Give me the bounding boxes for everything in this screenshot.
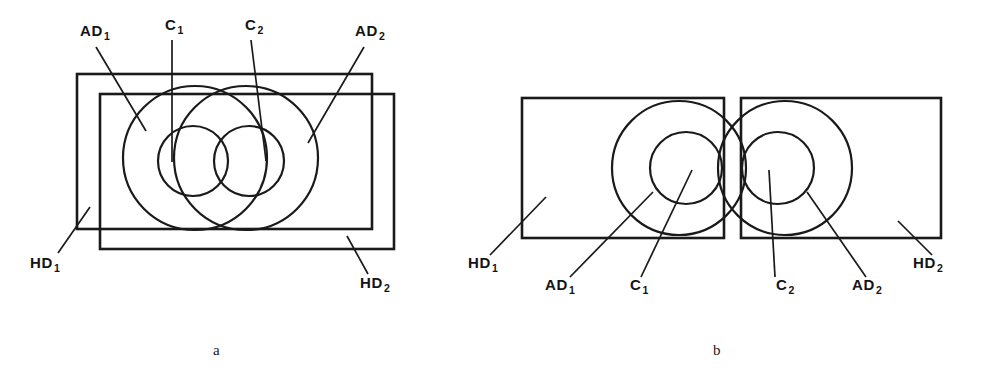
- panel-b-label-hd2: HD2: [913, 254, 943, 274]
- panel-b-leader-ad2: [807, 192, 866, 277]
- panel-a-circle-c2: [214, 126, 284, 196]
- caption-b: b: [713, 342, 721, 358]
- venn-diagram-figure: AD1 C1 C2 AD2 HD1 HD2: [0, 0, 995, 384]
- panel-a-label-ad1: AD1: [80, 22, 110, 42]
- panel-a-label-c1: C1: [165, 16, 184, 36]
- panel-b-circle-ad2: [718, 101, 852, 235]
- panel-b-rect-hd1: [522, 98, 724, 238]
- panel-b-label-ad2: AD2: [852, 276, 882, 296]
- panel-b-label-hd1: HD1: [468, 254, 498, 274]
- panel-b-circle-c1: [650, 132, 722, 204]
- panel-b-circle-ad1: [612, 101, 746, 235]
- panel-b-label-c2: C2: [776, 276, 795, 296]
- panel-a-label-ad2: AD2: [355, 22, 385, 42]
- panel-b-leader-c1: [641, 170, 692, 277]
- panel-a-rect-hd2: [100, 94, 394, 249]
- panel-a-rect-hd1: [77, 74, 372, 229]
- panel-a-group: AD1 C1 C2 AD2 HD1 HD2: [30, 16, 394, 294]
- panel-b-label-c1: C1: [630, 276, 649, 296]
- panel-a-label-hd2: HD2: [360, 274, 390, 294]
- panel-a-label-c2: C2: [245, 16, 264, 36]
- panel-b-leader-ad1: [570, 192, 653, 277]
- panel-b-label-ad1: AD1: [545, 276, 575, 296]
- panel-b-group: HD1 AD1 C1 C2 AD2 HD2: [468, 98, 943, 296]
- figure-root: AD1 C1 C2 AD2 HD1 HD2: [0, 0, 995, 384]
- panel-a-leader-c2: [251, 40, 266, 161]
- caption-a: a: [213, 342, 220, 358]
- panel-a-leader-hd2: [347, 236, 368, 274]
- panel-a-label-hd1: HD1: [30, 254, 60, 274]
- panel-b-leader-hd1: [490, 197, 546, 255]
- panel-a-circle-c1: [158, 126, 228, 196]
- panel-a-leader-ad1: [96, 47, 146, 131]
- panel-b-circle-c2: [742, 132, 814, 204]
- panel-b-leader-c2: [769, 170, 775, 277]
